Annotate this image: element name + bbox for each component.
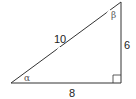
- horizontal-side-label: 8: [69, 87, 75, 99]
- hypotenuse-tick-mark: [57, 47, 60, 51]
- right-triangle-diagram: 10 6 8 α β: [0, 0, 136, 99]
- angle-alpha-label: α: [24, 73, 30, 83]
- angle-beta-label: β: [111, 10, 116, 20]
- vertical-side-label: 6: [124, 39, 130, 51]
- hypotenuse-tick-mark-2: [107, 10, 110, 14]
- right-angle-marker: [113, 75, 121, 83]
- hypotenuse-label: 10: [54, 33, 66, 45]
